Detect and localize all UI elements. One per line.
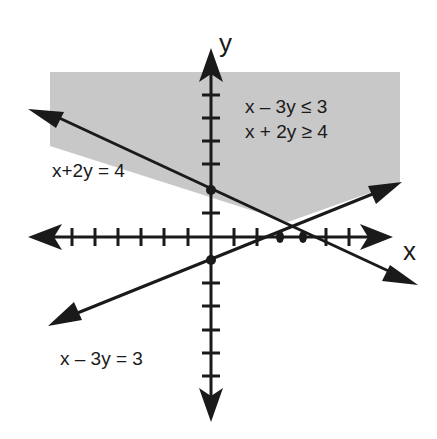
x-axis-label: x xyxy=(403,236,416,267)
line-label-2: x – 3y = 3 xyxy=(60,348,143,370)
line-label-1: x+2y = 4 xyxy=(52,160,125,182)
inequality-2: x + 2y ≥ 4 xyxy=(245,121,328,143)
inequality-1: x – 3y ≤ 3 xyxy=(245,96,327,118)
shaded-region xyxy=(50,72,400,222)
graph-canvas xyxy=(0,0,437,439)
y-axis-label: y xyxy=(219,28,232,59)
